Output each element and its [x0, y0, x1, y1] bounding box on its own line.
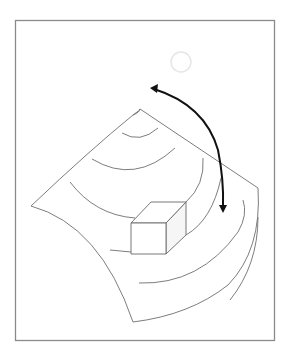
- cube-front-face: [131, 223, 166, 254]
- diagram-canvas: Curved sheet with cube and rotation arro…: [0, 0, 287, 353]
